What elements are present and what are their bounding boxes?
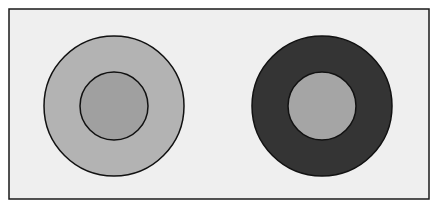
contrast-diagram [0, 0, 437, 210]
right-figure [252, 36, 392, 176]
left-inner-disc [80, 72, 148, 140]
right-inner-disc [288, 72, 356, 140]
diagram-canvas [0, 0, 437, 210]
left-figure [44, 36, 184, 176]
